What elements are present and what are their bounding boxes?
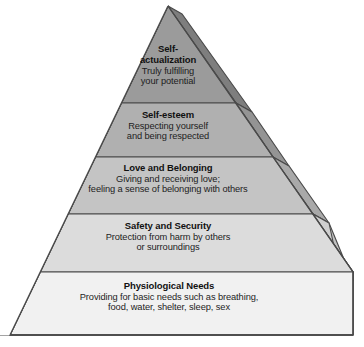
maslow-pyramid-diagram: Self- actualization Truly fulfilling you… — [0, 0, 364, 347]
pyramid-graphic — [0, 0, 364, 347]
tier-face-physiological-needs — [0, 272, 353, 335]
